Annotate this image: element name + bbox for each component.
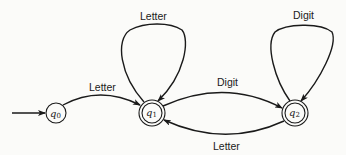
edge-label-q1-q2: Digit <box>217 76 238 88</box>
edge-q2-q1 <box>164 120 284 134</box>
state-q2: q2 <box>282 100 308 126</box>
edge-q0-q1 <box>63 95 140 105</box>
edge-label-q0-q1: Letter <box>89 81 116 93</box>
edge-label-q2-q1: Letter <box>213 140 240 152</box>
edge-q1-self <box>122 24 186 102</box>
state-q0: q0 <box>46 103 66 123</box>
edge-label-q1-self: Letter <box>140 10 167 22</box>
edge-q2-self <box>271 25 333 101</box>
edge-q1-q2 <box>163 92 282 108</box>
state-diagram: Letter Letter Digit Digit Letter q0 q1 q… <box>0 0 346 155</box>
edge-label-q2-self: Digit <box>293 9 314 21</box>
state-q1: q1 <box>139 100 165 126</box>
